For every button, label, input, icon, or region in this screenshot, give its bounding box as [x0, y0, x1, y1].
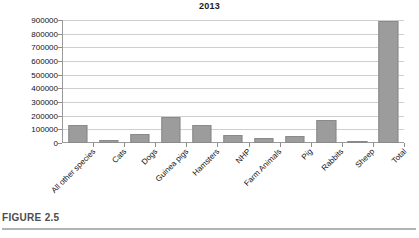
bar[interactable]	[254, 138, 273, 143]
y-axis-tick	[58, 129, 62, 130]
y-axis-tick	[58, 143, 62, 144]
bar-chart: 2013 90000080000070000060000050000040000…	[0, 0, 419, 210]
x-axis-tick-label: All other species	[49, 147, 97, 195]
y-axis-tick-label: 200000	[0, 111, 58, 120]
bar[interactable]	[223, 135, 242, 143]
y-axis-tick	[58, 47, 62, 48]
bar-slot	[186, 20, 217, 143]
bar-slot	[124, 20, 155, 143]
bar[interactable]	[130, 134, 149, 143]
y-axis-labels: 9000008000007000006000005000004000003000…	[0, 20, 58, 143]
x-axis-tick	[93, 143, 94, 147]
bar[interactable]	[68, 125, 87, 143]
bar[interactable]	[379, 21, 398, 143]
chart-title: 2013	[0, 1, 419, 11]
bar-slot	[249, 20, 280, 143]
x-axis-tick-label: Dogs	[140, 147, 160, 167]
bar[interactable]	[286, 136, 305, 143]
x-axis-tick	[249, 143, 250, 147]
bar-slot	[373, 20, 404, 143]
bar[interactable]	[192, 125, 211, 143]
x-axis-tick-label: Hamsters	[191, 147, 222, 178]
x-axis-tick-label: Rabbits	[320, 147, 346, 173]
y-axis-tick	[58, 61, 62, 62]
figure-container: 2013 90000080000070000060000050000040000…	[0, 0, 419, 238]
bar[interactable]	[348, 141, 367, 143]
y-axis-tick	[58, 20, 62, 21]
x-axis-labels: All other speciesCatsDogsGuinea pigsHams…	[0, 147, 419, 209]
x-axis-tick	[311, 143, 312, 147]
bar-slot	[155, 20, 186, 143]
bar-slot	[342, 20, 373, 143]
bar[interactable]	[161, 117, 180, 143]
bar[interactable]	[317, 120, 336, 143]
y-axis-tick-label: 600000	[0, 57, 58, 66]
bar-slot	[62, 20, 93, 143]
y-axis-tick-label: 500000	[0, 70, 58, 79]
y-axis-tick-label: 400000	[0, 84, 58, 93]
x-axis-tick	[155, 143, 156, 147]
y-axis-tick-label: 700000	[0, 43, 58, 52]
y-axis-tick	[58, 88, 62, 89]
y-axis-tick	[58, 116, 62, 117]
x-axis-tick-label: Sheep	[354, 147, 377, 170]
bar-slot	[217, 20, 248, 143]
y-axis-tick	[58, 34, 62, 35]
caption-block: FIGURE 2.5	[0, 212, 419, 238]
figure-caption: FIGURE 2.5	[2, 212, 59, 223]
bar-slot	[311, 20, 342, 143]
x-axis-tick-label: Total	[390, 147, 408, 165]
x-axis-tick-label: Cats	[110, 147, 128, 165]
x-axis-tick	[217, 143, 218, 147]
bar[interactable]	[99, 140, 118, 143]
bar-slot	[280, 20, 311, 143]
x-axis-tick	[342, 143, 343, 147]
x-axis-tick	[280, 143, 281, 147]
y-axis-tick-label: 300000	[0, 98, 58, 107]
x-axis-tick	[124, 143, 125, 147]
x-axis-tick	[186, 143, 187, 147]
y-axis-tick-label: 800000	[0, 29, 58, 38]
caption-divider	[2, 228, 416, 230]
x-axis-tick	[404, 143, 405, 147]
x-axis-tick	[373, 143, 374, 147]
y-axis-tick-label: 900000	[0, 16, 58, 25]
x-axis-tick-label: Pig	[300, 147, 315, 162]
bars-layer	[62, 20, 404, 143]
y-axis-tick-label: 100000	[0, 125, 58, 134]
y-axis-tick	[58, 75, 62, 76]
y-axis-tick	[58, 102, 62, 103]
bar-slot	[93, 20, 124, 143]
x-axis-tick-label: NHP	[234, 147, 252, 165]
